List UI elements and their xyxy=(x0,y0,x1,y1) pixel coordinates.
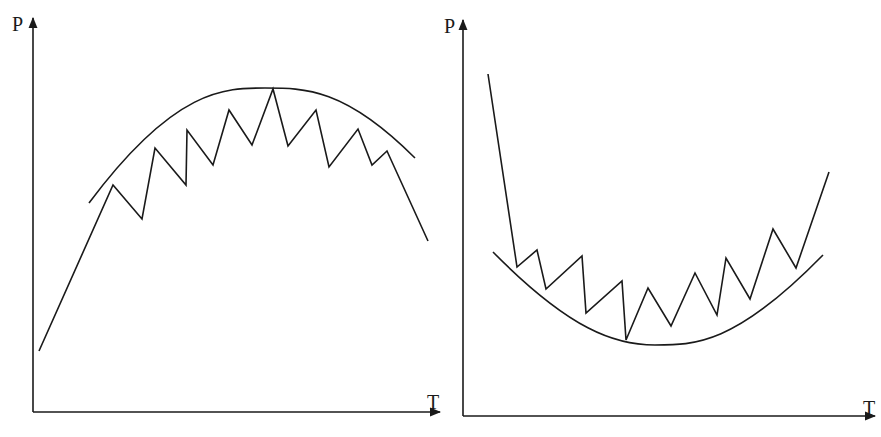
figure-canvas xyxy=(0,0,881,437)
left-y-axis-label: P xyxy=(12,14,23,34)
right-zigzag-line xyxy=(488,74,829,340)
right-panel xyxy=(463,20,875,416)
left-panel xyxy=(33,18,440,412)
right-envelope-curve xyxy=(493,252,823,345)
right-y-axis-label: P xyxy=(444,16,455,36)
left-zigzag-line xyxy=(39,89,428,351)
left-x-axis-label: T xyxy=(427,392,439,412)
right-x-axis-label: T xyxy=(863,398,875,418)
